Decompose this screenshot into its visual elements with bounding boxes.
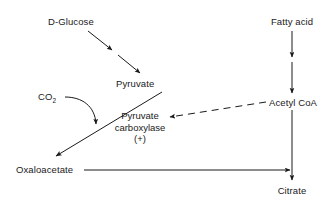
node-pyruvate: Pyruvate [116, 78, 154, 89]
enzyme-activation-sign: (+) [115, 133, 166, 145]
edge-co2-curved-arrow [65, 97, 96, 124]
edge-acetylcoa-activation-dashed [170, 102, 266, 117]
enzyme-name-line1: Pyruvate [115, 110, 166, 122]
pathway-diagram: D-Glucose Pyruvate CO2 Pyruvate carboxyl… [0, 0, 334, 206]
node-d-glucose: D-Glucose [48, 16, 94, 27]
node-acetyl-coa-label: Acetyl CoA [269, 97, 317, 108]
node-acetyl-coa: Acetyl CoA [269, 97, 317, 108]
node-oxaloacetate-label: Oxaloacetate [16, 164, 73, 175]
node-co2-subscript: 2 [52, 97, 56, 104]
node-citrate: Citrate [278, 185, 307, 196]
node-citrate-label: Citrate [278, 185, 307, 196]
node-oxaloacetate: Oxaloacetate [16, 164, 73, 175]
node-co2-formula: CO [38, 91, 52, 102]
node-fatty-acid-label: Fatty acid [271, 16, 313, 27]
node-co2: CO2 [38, 91, 56, 104]
enzyme-name-line2: carboxylase [115, 122, 166, 134]
edge-glucose-to-pyruvate-seg2 [118, 55, 140, 73]
node-fatty-acid: Fatty acid [271, 16, 313, 27]
edge-glucose-to-pyruvate-seg1 [88, 31, 112, 50]
enzyme-pyruvate-carboxylase: Pyruvate carboxylase (+) [115, 110, 166, 145]
node-d-glucose-label: D-Glucose [48, 16, 94, 27]
node-pyruvate-label: Pyruvate [116, 78, 154, 89]
